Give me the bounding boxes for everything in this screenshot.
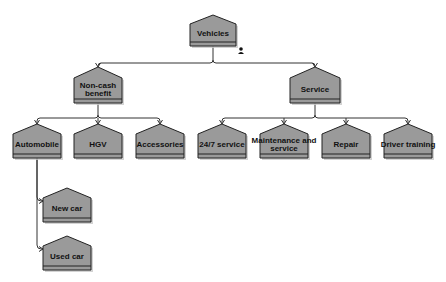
connector-vehicles-stem-right — [213, 60, 216, 63]
nodes-layer: VehiclesNon-cashbenefitServiceAutomobile… — [13, 15, 435, 272]
connector-service-stem-right — [315, 115, 318, 118]
node-maintenance-and-service[interactable]: Maintenance andservice — [252, 124, 317, 160]
node-label: service — [270, 144, 298, 153]
node-label: Vehicles — [197, 29, 230, 38]
user-icon[interactable] — [238, 47, 244, 54]
node-label: benefit — [85, 89, 112, 98]
node-vehicles[interactable]: Vehicles — [190, 15, 238, 48]
badges-layer — [238, 47, 244, 54]
node-label: New car — [52, 204, 83, 213]
node-247-service[interactable]: 24/7 service — [198, 124, 248, 160]
node-driver-training[interactable]: Driver training — [381, 124, 436, 160]
node-label: Repair — [334, 140, 359, 149]
node-accessories[interactable]: Accessories — [136, 124, 186, 160]
connector-to-new-car — [37, 158, 43, 201]
node-label: Driver training — [381, 140, 436, 149]
node-label: Service — [301, 85, 330, 94]
node-repair[interactable]: Repair — [322, 124, 372, 160]
node-non-cash-benefit[interactable]: Non-cashbenefit — [74, 67, 124, 105]
node-new-car[interactable]: New car — [43, 188, 93, 224]
node-hgv[interactable]: HGV — [74, 124, 124, 160]
node-service[interactable]: Service — [290, 67, 342, 105]
node-used-car[interactable]: Used car — [43, 236, 93, 272]
connector-non-cash-benefit-stem-right — [98, 115, 101, 118]
connector-to-used-car — [37, 158, 43, 249]
node-label: Accessories — [136, 140, 184, 149]
user-icon-head — [239, 47, 243, 51]
org-chart-diagram: VehiclesNon-cashbenefitServiceAutomobile… — [0, 0, 446, 282]
user-icon-body — [238, 52, 244, 54]
node-label: Automobile — [15, 140, 60, 149]
node-automobile[interactable]: Automobile — [13, 124, 63, 160]
node-label: HGV — [89, 140, 107, 149]
node-label: 24/7 service — [199, 140, 245, 149]
node-label: Used car — [50, 252, 84, 261]
